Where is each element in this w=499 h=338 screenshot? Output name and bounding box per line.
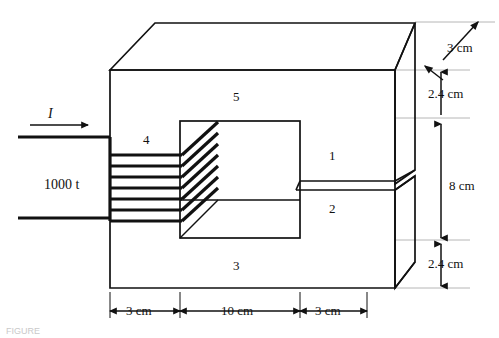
dimension-height-8cm: 8 cm — [449, 179, 475, 192]
air-gap-upper-receding — [395, 170, 415, 181]
dimension-right-3cm: 3 cm — [315, 304, 341, 317]
core-right-face-lower — [395, 176, 415, 288]
vertical-dimension-lines — [425, 22, 478, 286]
current-label: I — [48, 107, 53, 121]
core-right-face-upper — [395, 23, 415, 184]
segment-label-2: 2 — [329, 202, 336, 215]
dimension-upper-2-4cm: 2.4 cm — [428, 87, 463, 100]
coil-turns-label: 1000 t — [44, 178, 79, 192]
dimension-window-10cm: 10 cm — [221, 304, 253, 317]
magnetic-core-diagram — [0, 0, 499, 338]
segment-label-5: 5 — [233, 90, 240, 103]
dimension-lower-2-4cm: 2.4 cm — [428, 257, 463, 270]
air-gap — [296, 170, 415, 190]
segment-label-1: 1 — [329, 149, 336, 162]
projection-rules — [395, 22, 495, 288]
dimension-depth-3cm: 3 cm — [447, 41, 473, 54]
core-bottom-receding-edge — [395, 262, 415, 288]
segment-label-4: 4 — [143, 133, 150, 146]
dimension-left-3cm: 3 cm — [126, 304, 152, 317]
segment-label-3: 3 — [233, 259, 240, 272]
figure-caption: FIGURE — [6, 326, 40, 336]
air-gap-lower-receding — [395, 176, 415, 190]
core-top-face — [110, 23, 415, 70]
